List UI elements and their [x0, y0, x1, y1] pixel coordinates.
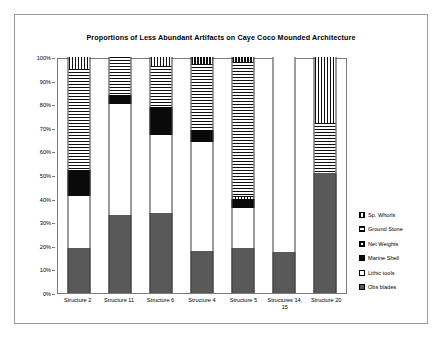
- legend-item[interactable]: Sp. Whorls: [359, 211, 437, 218]
- x-axis-tick-label: Structure 11: [98, 297, 139, 321]
- legend-item[interactable]: Marine Shell: [359, 255, 437, 262]
- x-axis-labels: Structure 2Structure 11Structure 6Struct…: [57, 297, 347, 321]
- stacked-bar[interactable]: [149, 59, 172, 293]
- bar-segment[interactable]: [314, 173, 337, 293]
- y-axis-tick-label: 30%: [40, 220, 51, 226]
- plot-area: [57, 58, 347, 294]
- y-axis-tick-label: 90%: [40, 79, 51, 85]
- bar-segment[interactable]: [108, 95, 131, 104]
- y-axis-tick-label: 100%: [37, 55, 51, 61]
- stacked-bar[interactable]: [273, 59, 296, 293]
- bar-segment[interactable]: [232, 248, 255, 293]
- y-axis-tick-mark: [52, 105, 55, 106]
- stacked-bar[interactable]: [232, 59, 255, 293]
- bar-segment[interactable]: [273, 57, 296, 252]
- y-axis-tick-mark: [52, 270, 55, 271]
- bar-segment[interactable]: [190, 142, 213, 251]
- bar-slot: [99, 59, 140, 293]
- legend-swatch-icon: [359, 284, 365, 290]
- y-axis-tick-mark: [52, 129, 55, 130]
- bar-segment[interactable]: [67, 69, 90, 170]
- bar-segment[interactable]: [149, 135, 172, 213]
- bar-segment[interactable]: [232, 196, 255, 198]
- bar-slot: [305, 59, 346, 293]
- bar-segment[interactable]: [108, 104, 131, 215]
- bar-segment[interactable]: [232, 208, 255, 248]
- bar-segment[interactable]: [108, 215, 131, 293]
- legend-item-label: Obs blades: [368, 284, 396, 290]
- bar-segment[interactable]: [67, 196, 90, 248]
- bar-segment[interactable]: [314, 57, 337, 123]
- y-axis-tick-label: 50%: [40, 173, 51, 179]
- legend-item-label: Net Weights: [368, 241, 398, 247]
- bar-slot: [58, 59, 99, 293]
- x-axis-tick-label: Structure 6: [140, 297, 181, 321]
- bar-segment[interactable]: [190, 251, 213, 293]
- y-axis-tick-label: 80%: [40, 102, 51, 108]
- stacked-bar[interactable]: [67, 59, 90, 293]
- legend-item-label: Ground Stone: [368, 226, 403, 232]
- stacked-bar[interactable]: [190, 59, 213, 293]
- bar-segment[interactable]: [314, 123, 337, 173]
- bar-segment[interactable]: [67, 170, 90, 196]
- bar-segment[interactable]: [149, 107, 172, 135]
- y-axis-tick-mark: [52, 152, 55, 153]
- stacked-bar[interactable]: [314, 59, 337, 293]
- y-axis-tick-label: 70%: [40, 126, 51, 132]
- x-axis-tick-label: Structure 2: [57, 297, 98, 321]
- legend-swatch-icon: [359, 241, 365, 247]
- bar-segment[interactable]: [149, 57, 172, 66]
- y-axis-tick-mark: [52, 200, 55, 201]
- bar-slot: [181, 59, 222, 293]
- y-axis-tick-label: 60%: [40, 149, 51, 155]
- y-axis: 100%90%80%70%60%50%40%30%20%10%0%: [15, 58, 55, 294]
- bar-segment[interactable]: [273, 252, 296, 293]
- y-axis-tick-label: 40%: [40, 197, 51, 203]
- x-axis-tick-label: Structure 5: [223, 297, 264, 321]
- bar-segment[interactable]: [232, 199, 255, 208]
- legend-swatch-icon: [359, 255, 365, 261]
- legend-swatch-icon: [359, 212, 365, 218]
- bar-group: [58, 59, 346, 293]
- legend-item[interactable]: Ground Stone: [359, 226, 437, 233]
- bar-segment[interactable]: [190, 64, 213, 130]
- y-axis-tick-label: 20%: [40, 244, 51, 250]
- legend-item-label: Lithic tools: [368, 270, 394, 276]
- legend-swatch-icon: [359, 226, 365, 232]
- legend-item[interactable]: Obs blades: [359, 284, 437, 291]
- bar-slot: [140, 59, 181, 293]
- chart-frame: Proportions of Less Abundant Artifacts o…: [14, 14, 428, 324]
- chart-title: Proportions of Less Abundant Artifacts o…: [15, 33, 427, 42]
- bar-segment[interactable]: [149, 66, 172, 106]
- bar-slot: [264, 59, 305, 293]
- bar-segment[interactable]: [232, 62, 255, 197]
- stacked-bar[interactable]: [108, 59, 131, 293]
- bar-segment[interactable]: [149, 213, 172, 293]
- y-axis-tick-mark: [52, 294, 55, 295]
- x-axis-tick-label: Structure 4: [181, 297, 222, 321]
- x-axis-tick-label: Structures 14, 15: [264, 297, 305, 321]
- x-axis-tick-label: Structure 20: [306, 297, 347, 321]
- bar-segment[interactable]: [67, 248, 90, 293]
- bar-segment[interactable]: [190, 57, 213, 64]
- y-axis-tick-mark: [52, 247, 55, 248]
- y-axis-tick-mark: [52, 58, 55, 59]
- y-axis-tick-label: 10%: [40, 267, 51, 273]
- legend-swatch-icon: [359, 270, 365, 276]
- chart-legend: Sp. WhorlsGround StoneNet WeightsMarine …: [359, 211, 437, 298]
- legend-item-label: Marine Shell: [368, 255, 399, 261]
- bar-slot: [223, 59, 264, 293]
- y-axis-tick-label: 0%: [43, 291, 51, 297]
- bar-segment[interactable]: [190, 130, 213, 142]
- y-axis-tick-mark: [52, 223, 55, 224]
- bar-segment[interactable]: [232, 57, 255, 62]
- bar-segment[interactable]: [108, 57, 131, 95]
- legend-item[interactable]: Net Weights: [359, 240, 437, 247]
- bar-segment[interactable]: [67, 57, 90, 69]
- legend-item[interactable]: Lithic tools: [359, 269, 437, 276]
- y-axis-tick-mark: [52, 176, 55, 177]
- y-axis-tick-mark: [52, 82, 55, 83]
- legend-item-label: Sp. Whorls: [368, 212, 395, 218]
